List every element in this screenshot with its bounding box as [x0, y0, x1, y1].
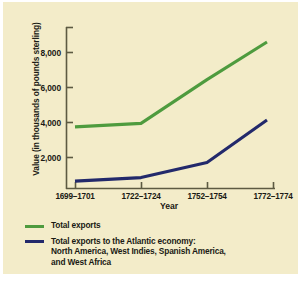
legend-label-atlantic-economy: Total exports to the Atlantic economy: N…	[51, 236, 226, 268]
legend-swatch-green	[25, 225, 44, 228]
x-tick-label-1699-1701: 1699–1701	[41, 192, 109, 201]
legend-label-total-exports: Total exports	[51, 220, 101, 231]
chart-plot-area: Value (in thousands of pounds sterling) …	[3, 2, 298, 274]
legend-item-total-exports: Total exports	[25, 220, 293, 231]
y-tick-label-2000: 2,000	[21, 153, 61, 163]
chart-legend: Total exports Total exports to the Atlan…	[25, 220, 293, 272]
legend-item-atlantic-economy: Total exports to the Atlantic economy: N…	[25, 236, 293, 268]
chart-figure: Value (in thousands of pounds sterling) …	[0, 0, 302, 290]
x-axis-title: Year	[63, 201, 275, 211]
y-tick-label-4000: 4,000	[21, 118, 61, 128]
chart-plate: Value (in thousands of pounds sterling) …	[3, 2, 298, 274]
x-tick-label-1722-1724: 1722–1724	[107, 192, 175, 201]
y-tick-label-8000: 8,000	[21, 48, 61, 58]
legend-swatch-navy	[25, 240, 44, 243]
series-line-total-exports	[75, 42, 267, 127]
x-tick-label-1772-1774: 1772–1774	[239, 192, 302, 201]
x-tick-label-1752-1754: 1752–1754	[173, 192, 241, 201]
y-tick-label-6000: 6,000	[21, 83, 61, 93]
series-line-atlantic-economy	[75, 120, 267, 181]
